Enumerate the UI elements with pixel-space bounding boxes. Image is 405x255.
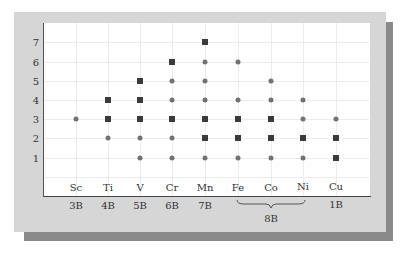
grid-line-vertical [172, 23, 173, 196]
circle-marker-fe-4 [236, 98, 241, 103]
grid-line-vertical [303, 23, 304, 196]
grid-line-vertical [108, 23, 109, 196]
grid-line-vertical [76, 23, 77, 196]
grid-line-vertical [205, 23, 206, 196]
square-marker-v-5 [137, 78, 143, 84]
circle-marker-mn-1 [203, 156, 208, 161]
grid-line-vertical [140, 23, 141, 196]
circle-marker-fe-6 [236, 60, 241, 65]
circle-marker-co-4 [269, 98, 274, 103]
circle-marker-v-1 [138, 156, 143, 161]
circle-marker-cr-1 [170, 156, 175, 161]
x-label-co: Co [264, 182, 278, 193]
y-tick-2: 2 [29, 133, 43, 144]
y-tick-1: 1 [29, 153, 43, 164]
square-marker-mn-7 [202, 39, 208, 45]
group-label-8b: 8B [264, 213, 278, 224]
square-marker-cr-6 [169, 59, 175, 65]
circle-marker-v-2 [138, 136, 143, 141]
y-tick-7: 7 [29, 37, 43, 48]
square-marker-v-3 [137, 116, 143, 122]
group-label-4b: 4B [101, 200, 115, 211]
circle-marker-ni-1 [301, 156, 306, 161]
square-marker-cu-2 [333, 135, 339, 141]
grid-line-vertical [271, 23, 272, 196]
square-marker-mn-2 [202, 135, 208, 141]
circle-marker-ni-3 [301, 117, 306, 122]
circle-marker-co-1 [269, 156, 274, 161]
square-marker-cu-1 [333, 155, 339, 161]
circle-marker-mn-6 [203, 60, 208, 65]
y-tick-5: 5 [29, 76, 43, 87]
square-marker-ni-2 [300, 135, 306, 141]
y-tick-3: 3 [29, 114, 43, 125]
x-label-sc: Sc [70, 182, 82, 193]
circle-marker-mn-4 [203, 98, 208, 103]
group-label-1b: 1B [329, 199, 343, 210]
circle-marker-mn-5 [203, 79, 208, 84]
square-marker-co-2 [268, 135, 274, 141]
x-label-v: V [136, 182, 143, 193]
x-label-cr: Cr [166, 182, 178, 193]
square-marker-co-3 [268, 116, 274, 122]
circle-marker-ni-4 [301, 98, 306, 103]
group-label-6b: 6B [165, 200, 179, 211]
x-axis-line [43, 196, 371, 197]
x-label-ti: Ti [103, 182, 113, 193]
group-8b-brace [236, 199, 306, 209]
circle-marker-cr-5 [170, 79, 175, 84]
group-label-7b: 7B [198, 200, 212, 211]
x-label-ni: Ni [297, 181, 309, 192]
grid-line-horizontal [44, 177, 369, 178]
square-marker-ti-4 [105, 97, 111, 103]
circle-marker-cr-2 [170, 136, 175, 141]
square-marker-ti-3 [105, 116, 111, 122]
square-marker-fe-3 [235, 116, 241, 122]
x-label-mn: Mn [197, 182, 214, 193]
plot-area [43, 23, 370, 196]
grid-line-vertical [238, 23, 239, 196]
y-tick-6: 6 [29, 57, 43, 68]
circle-marker-ti-2 [106, 136, 111, 141]
circle-marker-fe-1 [236, 156, 241, 161]
circle-marker-cr-4 [170, 98, 175, 103]
circle-marker-cu-3 [334, 117, 339, 122]
y-tick-4: 4 [29, 95, 43, 106]
square-marker-cr-3 [169, 116, 175, 122]
grid-line-vertical [336, 23, 337, 196]
x-label-cu: Cu [329, 181, 343, 192]
circle-marker-co-5 [269, 79, 274, 84]
square-marker-fe-2 [235, 135, 241, 141]
square-marker-v-4 [137, 97, 143, 103]
group-label-3b: 3B [69, 200, 83, 211]
x-label-fe: Fe [232, 182, 244, 193]
group-label-5b: 5B [133, 200, 147, 211]
circle-marker-sc-3 [74, 117, 79, 122]
square-marker-mn-3 [202, 116, 208, 122]
